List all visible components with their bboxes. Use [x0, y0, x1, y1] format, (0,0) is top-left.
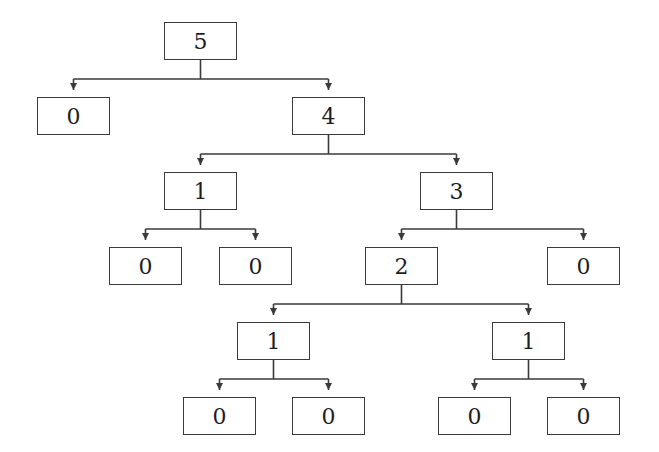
tree-node: 0 — [547, 247, 620, 285]
node-label: 0 — [577, 404, 591, 429]
tree-node: 1 — [492, 322, 565, 360]
node-label: 0 — [67, 104, 81, 129]
tree-node: 3 — [420, 172, 493, 210]
tree-node-leaf: 0 — [547, 397, 620, 435]
tree-node-leaf: 0 — [438, 397, 511, 435]
edge-layer — [0, 0, 659, 452]
node-label: 1 — [267, 329, 281, 354]
node-label: 1 — [522, 329, 536, 354]
node-label: 0 — [249, 254, 263, 279]
node-label: 5 — [194, 29, 208, 54]
tree-node-root: 5 — [164, 22, 237, 60]
node-label: 0 — [139, 254, 153, 279]
tree-node: 2 — [365, 247, 438, 285]
tree-node: 4 — [292, 97, 365, 135]
node-label: 0 — [577, 254, 591, 279]
node-label: 0 — [322, 404, 336, 429]
node-label: 2 — [395, 254, 409, 279]
tree-diagram: 5 0 4 1 3 0 0 2 0 1 1 0 0 0 0 — [0, 0, 659, 452]
node-label: 0 — [468, 404, 482, 429]
tree-node: 1 — [237, 322, 310, 360]
tree-node: 0 — [219, 247, 292, 285]
node-label: 4 — [322, 104, 336, 129]
tree-node: 0 — [37, 97, 110, 135]
node-label: 1 — [194, 179, 208, 204]
node-label: 3 — [450, 179, 464, 204]
tree-node: 0 — [109, 247, 182, 285]
tree-node-leaf: 0 — [292, 397, 365, 435]
node-label: 0 — [213, 404, 227, 429]
tree-node-leaf: 0 — [183, 397, 256, 435]
tree-node: 1 — [164, 172, 237, 210]
